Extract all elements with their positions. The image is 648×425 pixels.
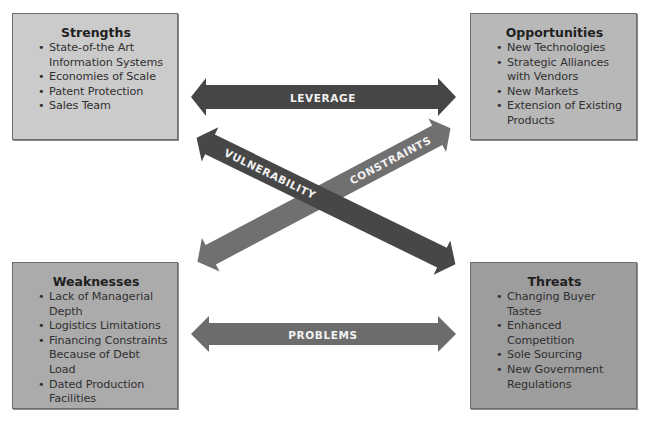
threats-box: Threats Changing Buyer Tastes Enhanced C…: [470, 262, 637, 409]
threats-title: Threats: [481, 274, 628, 289]
problems-label: PROBLEMS: [288, 329, 357, 341]
threats-item: Sole Sourcing: [495, 348, 628, 363]
weaknesses-list: Lack of Managerial Depth Logistics Limit…: [23, 290, 169, 407]
opportunities-list: New Technologies Strategic Alliances wit…: [481, 41, 628, 129]
strengths-item: Patent Protection: [37, 85, 169, 100]
weaknesses-item: Logistics Limitations: [37, 319, 169, 334]
opportunities-box: Opportunities New Technologies Strategic…: [470, 13, 637, 140]
leverage-arrow: LEVERAGE: [191, 78, 456, 116]
opportunities-item: Extension of Existing Products: [495, 99, 628, 128]
constraints-label: CONSTRAINTS: [348, 134, 434, 187]
opportunities-item: New Technologies: [495, 41, 628, 56]
threats-item: Enhanced Competition: [495, 319, 628, 348]
strengths-item: Economies of Scale: [37, 70, 169, 85]
leverage-label: LEVERAGE: [290, 92, 356, 104]
strengths-list: State-of-the Art Information Systems Eco…: [23, 41, 169, 114]
weaknesses-item: Financing Constraints Because of Debt Lo…: [37, 334, 169, 378]
weaknesses-item: Dated Production Facilities: [37, 378, 169, 407]
opportunities-title: Opportunities: [481, 25, 628, 40]
weaknesses-box: Weaknesses Lack of Managerial Depth Logi…: [12, 262, 178, 409]
threats-item: Changing Buyer Tastes: [495, 290, 628, 319]
vulnerability-label: VULNERABILITY: [222, 146, 318, 201]
strengths-title: Strengths: [23, 25, 169, 40]
weaknesses-title: Weaknesses: [23, 274, 169, 289]
opportunities-item: New Markets: [495, 85, 628, 100]
opportunities-item: Strategic Alliances with Vendors: [495, 56, 628, 85]
threats-item: New Government Regulations: [495, 363, 628, 392]
problems-arrow: PROBLEMS: [191, 316, 456, 352]
threats-list: Changing Buyer Tastes Enhanced Competiti…: [481, 290, 628, 392]
strengths-item: State-of-the Art Information Systems: [37, 41, 169, 70]
strengths-item: Sales Team: [37, 99, 169, 114]
strengths-box: Strengths State-of-the Art Information S…: [12, 13, 178, 140]
weaknesses-item: Lack of Managerial Depth: [37, 290, 169, 319]
